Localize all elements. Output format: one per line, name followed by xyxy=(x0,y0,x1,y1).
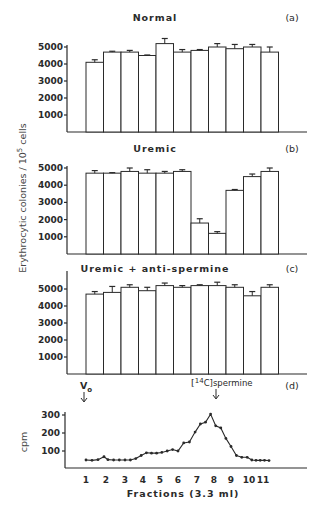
y-tick-label: 300 xyxy=(41,410,60,420)
y-tick-label: 2000 xyxy=(38,93,63,103)
bar xyxy=(209,47,227,132)
y-tick-label: 200 xyxy=(41,428,60,438)
data-point xyxy=(91,459,94,462)
data-point xyxy=(246,456,249,459)
y-tick-label: 3000 xyxy=(38,197,63,207)
bar xyxy=(156,173,174,254)
bar xyxy=(174,52,192,132)
x-tick-label: 2 xyxy=(103,475,109,485)
data-point xyxy=(145,451,148,454)
bar xyxy=(191,50,209,132)
bar xyxy=(156,286,174,374)
y-tick-label: 100 xyxy=(41,446,60,456)
bar xyxy=(121,287,139,374)
bar xyxy=(156,44,174,132)
panel-b-uremic: Uremic(b)10002000300040005000 xyxy=(38,143,307,254)
x-tick-label: 7 xyxy=(194,475,200,485)
figure: Erythrocytic colonies / 105 cells Normal… xyxy=(0,0,320,506)
bar xyxy=(104,52,122,132)
data-point xyxy=(194,431,197,434)
bar xyxy=(121,52,139,132)
bar xyxy=(139,173,157,254)
data-point xyxy=(204,421,207,424)
y-tick-label: 5000 xyxy=(38,163,63,173)
data-point xyxy=(268,459,271,462)
data-point xyxy=(166,450,169,453)
data-point xyxy=(214,424,217,427)
x-tick-label: 10 xyxy=(243,475,256,485)
data-point xyxy=(124,459,127,462)
data-point xyxy=(255,459,258,462)
svg-text:Vo: Vo xyxy=(80,380,92,394)
data-point xyxy=(235,454,238,457)
data-point xyxy=(140,454,143,457)
data-point xyxy=(85,459,88,462)
data-point xyxy=(259,459,262,462)
data-point xyxy=(160,451,163,454)
data-point xyxy=(188,441,191,444)
data-point xyxy=(250,459,253,462)
x-tick-label: 8 xyxy=(211,475,217,485)
x-tick-label: 5 xyxy=(157,475,163,485)
panel-title: Uremic + anti-spermine xyxy=(80,263,229,274)
panel-c-uremic-anti-spermine: Uremic + anti-spermine(c)100020003000400… xyxy=(38,263,307,374)
x-tick-label: 1 xyxy=(83,475,89,485)
bar xyxy=(174,171,192,254)
y-tick-label: 3000 xyxy=(38,318,63,328)
cpm-axis-label: cpm xyxy=(18,432,29,453)
data-point xyxy=(263,459,266,462)
data-point xyxy=(155,452,158,455)
bar xyxy=(86,294,104,374)
data-point xyxy=(107,458,110,461)
x-tick-label: 4 xyxy=(140,475,146,485)
data-point xyxy=(230,445,233,448)
bar xyxy=(244,296,262,374)
data-point xyxy=(225,437,228,440)
bar xyxy=(104,292,122,374)
panel-letter: (c) xyxy=(286,263,299,274)
y-tick-label: 1000 xyxy=(38,110,63,120)
bar xyxy=(209,286,227,374)
bar xyxy=(209,233,227,254)
panel-letter: (b) xyxy=(285,143,298,154)
data-point xyxy=(118,459,121,462)
bar xyxy=(244,47,262,132)
data-point xyxy=(182,442,185,445)
x-tick-label: 6 xyxy=(175,475,181,485)
panel-a-normal: Normal(a)10002000300040005000 xyxy=(38,12,307,132)
y-tick-label: 4000 xyxy=(38,59,63,69)
bar xyxy=(86,173,104,254)
bar xyxy=(139,56,157,133)
bar xyxy=(139,291,157,374)
data-point xyxy=(219,427,222,430)
data-point xyxy=(209,413,212,416)
bar xyxy=(261,52,279,132)
data-point xyxy=(150,452,153,455)
x-tick-label: 11 xyxy=(257,475,270,485)
panel-title: Normal xyxy=(133,12,178,23)
bar xyxy=(244,177,262,254)
bar xyxy=(261,171,279,254)
panel-letter: (a) xyxy=(285,12,298,23)
cpm-line xyxy=(86,414,269,460)
y-tick-label: 4000 xyxy=(38,180,63,190)
x-tick-label: 9 xyxy=(228,475,234,485)
bar xyxy=(226,190,244,254)
panel-letter: (d) xyxy=(285,380,298,391)
bar xyxy=(86,62,104,132)
data-point xyxy=(112,459,115,462)
y-tick-label: 5000 xyxy=(38,284,63,294)
x-axis-label: Fractions (3.3 ml) xyxy=(127,488,240,499)
y-tick-label: 3000 xyxy=(38,76,63,86)
bar xyxy=(191,223,209,254)
bar xyxy=(121,171,139,254)
y-tick-label: 5000 xyxy=(38,42,63,52)
data-point xyxy=(240,456,243,459)
data-point xyxy=(134,457,137,460)
y-tick-label: 2000 xyxy=(38,215,63,225)
y-axis-label: Erythrocytic colonies / 105 cells xyxy=(16,123,28,272)
data-point xyxy=(171,448,174,451)
bar xyxy=(261,287,279,374)
bar xyxy=(191,286,209,374)
vo-marker: Vo xyxy=(80,380,92,402)
